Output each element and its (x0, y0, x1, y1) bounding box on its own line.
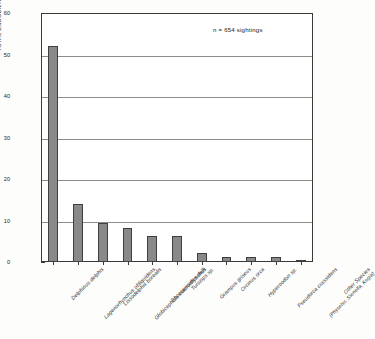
bar (147, 236, 157, 262)
y-tick-label: 40 (0, 93, 10, 99)
x-tick-label-name: Hyperoodon sp. (267, 266, 299, 298)
sample-size-annotation: n = 654 sightings (213, 26, 263, 33)
x-tick-label: Lissodelphis borealis (122, 266, 163, 307)
bar (197, 253, 207, 262)
bars-group (41, 13, 313, 262)
y-tick-label: 30 (0, 135, 10, 141)
y-tick-label: 10 (0, 218, 10, 224)
y-tick-mark (41, 262, 45, 263)
x-tick-mark (152, 262, 153, 265)
x-tick-label-name: Phocoenoides dalli (170, 266, 207, 303)
x-tick-label: Phocoenoides dalli (170, 266, 207, 303)
bar (98, 223, 108, 262)
x-tick-mark (103, 262, 104, 265)
x-tick-label-name: Delphinus delphis (70, 266, 105, 301)
x-tick-mark (251, 262, 252, 265)
x-tick-mark (53, 262, 54, 265)
x-tick-mark (128, 262, 129, 265)
bar (172, 236, 182, 262)
bar (123, 228, 133, 262)
x-tick-label-sub: (Physeter, Stenella, Kogia) (327, 270, 375, 318)
y-tick-label: 60 (0, 10, 10, 16)
y-tick-label: 0 (0, 259, 10, 265)
x-tick-mark (276, 262, 277, 265)
x-tick-mark (78, 262, 79, 265)
x-tick-mark (202, 262, 203, 265)
y-tick-label: 20 (0, 176, 10, 182)
bar (48, 46, 58, 262)
y-tick-label: 50 (0, 52, 10, 58)
x-tick-mark (301, 262, 302, 265)
x-tick-label: Hyperoodon sp. (267, 266, 299, 298)
bar (73, 204, 83, 262)
x-tick-label-name: Lissodelphis borealis (122, 266, 163, 307)
x-tick-mark (226, 262, 227, 265)
x-tick-label: Delphinus delphis (70, 266, 105, 301)
x-tick-mark (177, 262, 178, 265)
